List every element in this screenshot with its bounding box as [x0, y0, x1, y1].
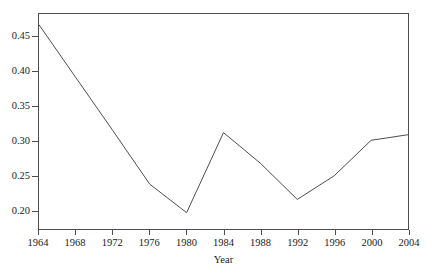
y-axis-tick-label: 0.45 — [0, 30, 30, 41]
y-axis-tick-label: 0.30 — [0, 135, 30, 146]
y-axis-tick-label-text: 0.45 — [0, 30, 30, 41]
x-axis-tick-mark — [224, 230, 225, 235]
x-axis-tick-mark — [38, 230, 39, 235]
x-axis-tick-mark — [409, 230, 410, 235]
line-chart-figure: 0.200.250.300.350.400.45 196419681972197… — [0, 0, 432, 275]
y-axis-tick-label: 0.25 — [0, 170, 30, 181]
x-axis-tick-mark — [372, 230, 373, 235]
plot-area — [38, 13, 409, 230]
y-axis-tick-label-text: 0.40 — [0, 65, 30, 76]
x-axis-tick-mark — [261, 230, 262, 235]
x-axis-tick-mark — [335, 230, 336, 235]
y-axis-tick-label-text: 0.30 — [0, 135, 30, 146]
x-axis-title: Year — [38, 254, 409, 266]
y-axis-tick-label-text: 0.25 — [0, 170, 30, 181]
y-axis-tick-label: 0.20 — [0, 205, 30, 216]
x-axis-tick-mark — [112, 230, 113, 235]
y-axis-tick-label-text: 0.35 — [0, 100, 30, 111]
y-axis-tick-label-text: 0.20 — [0, 205, 30, 216]
y-axis-tick-label: 0.35 — [0, 100, 30, 111]
x-axis-tick-mark — [149, 230, 150, 235]
x-axis-tick-mark — [298, 230, 299, 235]
x-axis-tick-label: 2004 — [386, 237, 432, 249]
x-axis-tick-mark — [186, 230, 187, 235]
x-axis-tick-mark — [75, 230, 76, 235]
y-axis-tick-label: 0.40 — [0, 65, 30, 76]
data-series-line — [39, 25, 408, 213]
data-line-svg — [39, 14, 408, 229]
